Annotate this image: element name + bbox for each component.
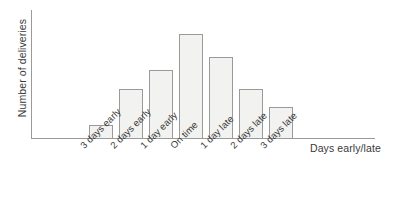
x-axis-tick-labels: 3 days early 2 days early 1 day early On… — [0, 139, 394, 203]
plot-area — [0, 0, 394, 139]
delivery-distribution-chart: Number of deliveries Days early/late 3 d… — [0, 0, 394, 203]
